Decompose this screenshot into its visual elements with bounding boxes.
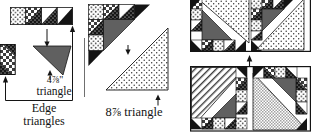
row-join-arrow-icon: [247, 55, 253, 61]
arrow-up-to-strip-icon: [70, 26, 75, 33]
arrow-down-seam-icon: [125, 50, 130, 55]
quilt-assembly-diagram: 4⅞" triangle Edge triangles 8⅞ triangle: [0, 0, 311, 133]
large-triangle-label: 8⅞ triangle: [94, 105, 174, 120]
edge-triangles-label-line2: triangles: [14, 115, 74, 128]
arrow-down-to-triangle-icon: [44, 42, 49, 47]
arrow-up-878-icon: [155, 95, 160, 101]
edge-triangles-label-line1: Edge: [14, 102, 74, 115]
small-triangle-word-label: triangle: [33, 85, 75, 97]
edge-triangles-label: Edge triangles: [14, 102, 74, 128]
arrow-up-to-hst-icon: [3, 76, 8, 83]
small-triangle-size-label: 4⅞": [34, 74, 76, 85]
